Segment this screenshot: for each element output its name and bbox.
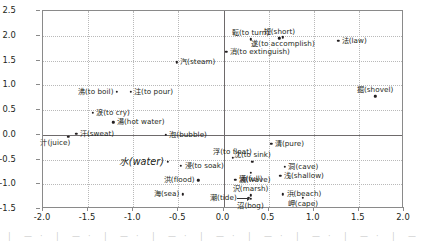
data-point — [234, 179, 236, 181]
data-point-label: 沢(marsh) — [233, 185, 269, 193]
scatter-plot-figure: 転(to turn)短(short)遂(to accomplish)法(law)… — [0, 0, 421, 242]
data-point-label: 泡(bubble) — [169, 131, 207, 139]
y-axis-tick-mark — [36, 84, 40, 85]
data-point — [279, 175, 281, 177]
clipped-text-fragment: · — [88, 232, 91, 241]
y-axis-tick-label: -1.0 — [0, 178, 16, 188]
clipped-text-fragment: | — [248, 232, 251, 241]
clipped-text-fragment: — — [312, 232, 320, 241]
x-axis-tick-mark — [177, 207, 178, 211]
y-axis-tick-mark — [36, 35, 40, 36]
gridline-horizontal — [43, 184, 402, 185]
y-axis-tick-mark — [36, 134, 40, 135]
clipped-text-fragment: | — [296, 232, 299, 241]
data-point-label: 湯(hot water) — [117, 118, 165, 126]
clipped-text-fragment: — — [72, 232, 80, 241]
data-point — [197, 179, 199, 181]
data-point-label: 沼(bog) — [237, 202, 263, 210]
data-point-label: 汗(sweat) — [80, 130, 114, 138]
y-axis-tick-label: -0.5 — [0, 154, 16, 164]
y-axis-tick-label: 2.5 — [0, 5, 16, 15]
clipped-text-fragment: — — [264, 232, 272, 241]
data-point-label: 沸(to boil) — [78, 88, 114, 96]
label-leader-arrow — [237, 198, 249, 199]
x-axis-tick-label: 1.0 — [293, 212, 333, 222]
clipped-text-fragment: | — [152, 232, 155, 241]
gridline-vertical — [133, 11, 134, 207]
data-point — [129, 90, 131, 92]
x-axis-tick-label: 0.5 — [248, 212, 288, 222]
data-point-label: 洞(cave) — [288, 163, 318, 171]
y-axis-tick-mark — [36, 183, 40, 184]
data-point — [112, 121, 114, 123]
y-axis-tick-label: -1.5 — [0, 203, 16, 213]
x-axis-tick-label: 2.0 — [383, 212, 421, 222]
clipped-text-fragment: — — [168, 232, 176, 241]
data-point — [282, 193, 284, 195]
data-point — [166, 161, 168, 163]
x-axis-tick-label: -1.5 — [67, 212, 107, 222]
data-point-label: 注(to pour) — [134, 88, 173, 96]
data-point-label: 涙(to cry) — [96, 109, 130, 117]
y-axis-tick-mark — [36, 159, 40, 160]
data-point-label: 浜(beach) — [287, 190, 322, 198]
x-axis-tick-mark — [132, 207, 133, 211]
clipped-text-fragment: · — [328, 232, 331, 241]
x-axis-tick-label: -0.5 — [157, 212, 197, 222]
y-axis-tick-label: 1.5 — [0, 55, 16, 65]
plot-area: 転(to turn)短(short)遂(to accomplish)法(law)… — [42, 10, 403, 208]
data-point-label: 汁(juice) — [40, 139, 70, 147]
gridline-vertical — [88, 11, 89, 207]
data-point — [270, 142, 272, 144]
x-axis-tick-mark — [403, 207, 404, 211]
y-axis-zero-line — [224, 11, 225, 207]
y-axis-tick-label: 0.5 — [0, 104, 16, 114]
data-point-label: 沈(to sink) — [234, 151, 271, 159]
clipped-text-fragment: — — [408, 232, 416, 241]
data-point — [284, 166, 286, 168]
y-axis-tick-label: 1.0 — [0, 79, 16, 89]
clipped-text-fragment: | — [8, 232, 11, 241]
clipped-text-fragment: | — [200, 232, 203, 241]
x-axis-tick-mark — [313, 207, 314, 211]
clipped-text-fragment: — — [24, 232, 32, 241]
x-axis-tick-mark — [42, 207, 43, 211]
clipped-text-fragment: · — [376, 232, 379, 241]
clipped-text-fragment: · — [40, 232, 43, 241]
data-point — [251, 161, 253, 163]
data-point-label: 掘(shovel) — [357, 86, 393, 94]
data-point-label: 海(sea) — [154, 190, 179, 198]
page-edge-artifact: |—·|—·|—·|—·|—·|—·|—·|—·|— — [0, 232, 421, 242]
x-axis-tick-label: 1.5 — [338, 212, 378, 222]
y-axis-tick-mark — [36, 109, 40, 110]
y-axis-tick-mark — [36, 60, 40, 61]
x-axis-tick-mark — [87, 207, 88, 211]
clipped-text-fragment: — — [360, 232, 368, 241]
y-axis-tick-mark — [36, 208, 40, 209]
data-point — [180, 165, 182, 167]
x-axis-tick-label: -2.0 — [22, 212, 62, 222]
data-point — [374, 95, 376, 97]
x-axis-tick-label: 0.0 — [203, 212, 243, 222]
data-point — [182, 193, 184, 195]
clipped-text-fragment: · — [232, 232, 235, 241]
y-axis-tick-label: 0.0 — [0, 129, 16, 139]
data-point-label: 浸(to soak) — [185, 162, 224, 170]
data-point-label: 水(water) — [119, 158, 164, 166]
clipped-text-fragment: · — [184, 232, 187, 241]
data-point-label: 清(pure) — [275, 140, 304, 148]
y-axis-tick-label: 2.0 — [0, 30, 16, 40]
clipped-text-fragment: | — [344, 232, 347, 241]
data-point-label: 潮(tide) — [210, 194, 237, 202]
clipped-text-fragment: · — [136, 232, 139, 241]
data-point — [225, 50, 227, 52]
data-point-label: 短(short) — [264, 28, 295, 36]
clipped-text-fragment: | — [104, 232, 107, 241]
data-point — [337, 39, 339, 41]
data-point-label: 汽(steam) — [180, 58, 215, 66]
gridline-horizontal — [43, 61, 402, 62]
x-axis-tick-mark — [223, 207, 224, 211]
data-point-label: 浅(shallow) — [284, 172, 324, 180]
clipped-text-fragment: — — [216, 232, 224, 241]
clipped-text-fragment: — — [120, 232, 128, 241]
